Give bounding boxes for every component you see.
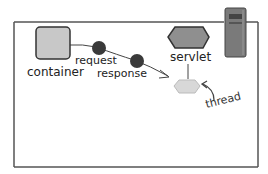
response-dot-icon <box>130 54 144 68</box>
servlet-hexagon-icon <box>168 27 209 48</box>
container-icon <box>36 27 70 59</box>
diagram-canvas <box>0 0 268 174</box>
server-icon <box>225 8 246 57</box>
response-label: response <box>97 68 147 79</box>
thread-hexagon-icon <box>174 80 200 93</box>
servlet-label: servlet <box>170 51 211 63</box>
request-label: request <box>75 55 117 66</box>
container-label: container <box>27 66 84 78</box>
request-dot-icon <box>92 41 106 55</box>
